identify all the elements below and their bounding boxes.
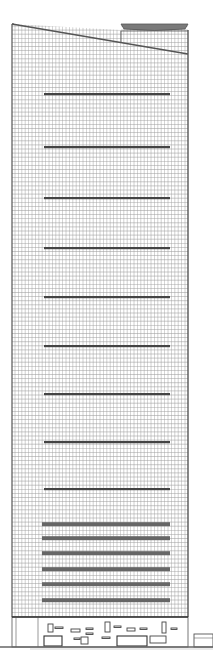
- curtain-wall-mullions: [15, 24, 185, 617]
- tower-elevation-svg: [0, 0, 213, 659]
- elevation-drawing: [0, 0, 213, 659]
- ground-floor-podium: [0, 617, 213, 649]
